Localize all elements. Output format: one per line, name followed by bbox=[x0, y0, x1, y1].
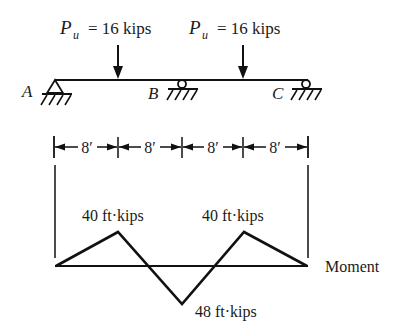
svg-text:P: P bbox=[59, 17, 72, 38]
svg-text:P: P bbox=[188, 17, 201, 38]
support-b-roller-icon bbox=[167, 80, 198, 100]
moment-axis-label: Moment bbox=[325, 258, 380, 275]
dimension-label-1: 8′ bbox=[81, 139, 93, 156]
svg-text:= 16 kips: = 16 kips bbox=[88, 19, 151, 38]
moment-label-negative: 48 ft·kips bbox=[195, 303, 257, 321]
beam-diagram: P u = 16 kips P u = 16 kips A B bbox=[0, 0, 417, 327]
dimension-label-3: 8′ bbox=[207, 139, 219, 156]
load-arrow-1-icon bbox=[113, 45, 123, 79]
support-a-label: A bbox=[21, 82, 33, 101]
svg-text:u: u bbox=[202, 28, 208, 42]
load-arrow-2-icon bbox=[238, 45, 248, 79]
svg-text:u: u bbox=[73, 28, 79, 42]
dimension-label-4: 8′ bbox=[269, 139, 281, 156]
load-label-1: P u = 16 kips bbox=[59, 17, 151, 42]
moment-label-peak-1: 40 ft·kips bbox=[82, 207, 144, 225]
moment-curve bbox=[56, 232, 307, 304]
support-c-roller-icon bbox=[291, 80, 322, 100]
support-c-label: C bbox=[272, 84, 284, 103]
dimension-label-2: 8′ bbox=[144, 139, 156, 156]
svg-text:= 16 kips: = 16 kips bbox=[217, 19, 280, 38]
moment-label-peak-2: 40 ft·kips bbox=[202, 207, 264, 225]
support-b-label: B bbox=[148, 84, 159, 103]
load-label-2: P u = 16 kips bbox=[188, 17, 280, 42]
support-a-pin-icon bbox=[41, 80, 72, 105]
